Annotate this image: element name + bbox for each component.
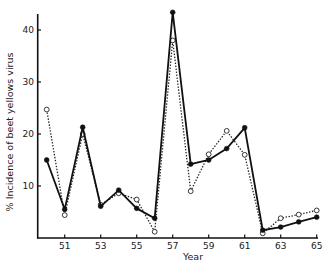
filled-marker <box>152 216 157 221</box>
open-marker <box>278 216 283 221</box>
open-marker <box>152 229 157 234</box>
x-tick-label: 51 <box>59 241 70 251</box>
x-axis: 5153555759616365 <box>37 235 322 251</box>
y-tick-label: 10 <box>23 181 35 191</box>
filled-marker <box>296 219 301 224</box>
open-marker <box>44 107 49 112</box>
x-tick-label: 63 <box>275 241 286 251</box>
open-marker <box>296 212 301 217</box>
open-marker <box>224 128 229 133</box>
filled-marker <box>314 215 319 220</box>
filled-marker <box>62 207 67 212</box>
x-tick-label: 61 <box>239 241 250 251</box>
y-axis: 10203040 <box>23 14 41 239</box>
line-chart: 10203040 5153555759616365 % Incidence of… <box>0 0 334 271</box>
filled-marker <box>278 225 283 230</box>
filled-marker <box>260 228 265 233</box>
filled-marker <box>134 206 139 211</box>
open-marker <box>242 152 247 157</box>
open-marker <box>62 213 67 218</box>
filled-marker <box>206 158 211 163</box>
y-tick-label: 30 <box>23 77 35 87</box>
x-axis-label: Year <box>182 251 203 262</box>
filled-marker <box>170 10 175 15</box>
y-axis-label: % Incidence of beet yellows virus <box>4 53 15 212</box>
filled-marker <box>188 162 193 167</box>
filled-marker <box>224 146 229 151</box>
series-layer <box>44 10 319 236</box>
open-marker <box>314 208 319 213</box>
filled-marker <box>242 125 247 130</box>
filled-marker <box>116 188 121 193</box>
open-marker <box>188 189 193 194</box>
open-marker <box>206 152 211 157</box>
series-solid <box>44 10 319 233</box>
y-tick-label: 40 <box>23 25 35 35</box>
filled-marker <box>98 204 103 209</box>
x-tick-label: 65 <box>311 241 322 251</box>
y-tick-label: 20 <box>23 129 35 139</box>
x-tick-label: 53 <box>95 241 106 251</box>
x-tick-label: 57 <box>167 241 178 251</box>
x-tick-label: 59 <box>203 241 215 251</box>
filled-marker <box>80 125 85 130</box>
x-tick-label: 55 <box>131 241 142 251</box>
filled-marker <box>44 158 49 163</box>
open-marker <box>134 197 139 202</box>
